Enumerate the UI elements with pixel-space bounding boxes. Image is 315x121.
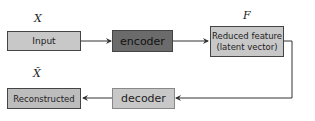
decoder-node: decoder xyxy=(112,88,175,109)
input-node: Input xyxy=(7,31,81,51)
feature-label-line1: Reduced feature xyxy=(212,31,282,42)
reduced-feature-node: Reduced feature (latent vector) xyxy=(210,26,284,57)
encoder-label: encoder xyxy=(120,35,165,48)
reconstructed-label: Reconstructed xyxy=(13,94,74,104)
label-x: X xyxy=(34,12,42,25)
reconstructed-node: Reconstructed xyxy=(7,88,81,109)
input-label: Input xyxy=(32,36,55,46)
decoder-label: decoder xyxy=(121,92,166,105)
label-f: F xyxy=(243,9,251,22)
feature-label-line2: (latent vector) xyxy=(216,42,277,53)
encoder-node: encoder xyxy=(112,30,173,52)
label-x-hat: X̃ xyxy=(33,67,41,80)
